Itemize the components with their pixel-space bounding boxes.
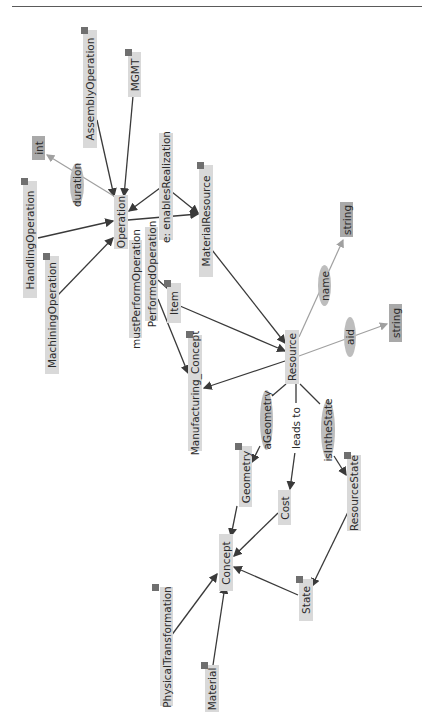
node-enables-realization[interactable]: e: enablesRealization (159, 133, 173, 240)
node-label: aGeometry (261, 391, 272, 450)
badge-icon (197, 162, 204, 169)
node-label: Cost (279, 496, 290, 519)
node-string-top[interactable]: string (340, 202, 353, 237)
node-label: string (390, 308, 401, 338)
edge-resourcestate-state (312, 512, 348, 586)
node-label: Operation (116, 196, 127, 248)
edge-resource-ageometry (272, 384, 286, 396)
node-label: leads to (291, 407, 302, 449)
edge-enables-materialresource (172, 192, 198, 213)
node-label: Concept (221, 541, 232, 584)
node-label: PhysicalTransformation (161, 586, 172, 708)
node-label: aid (345, 329, 356, 345)
node-mgmt[interactable]: MGMT (128, 52, 141, 97)
badge-icon (152, 584, 159, 591)
node-a-geometry[interactable]: aGeometry (260, 390, 273, 450)
edge-assembly-operation (97, 120, 114, 196)
node-geometry[interactable]: Geometry (239, 446, 252, 507)
node-label: MGMT (129, 58, 140, 91)
badge-icon (296, 576, 303, 583)
node-label: e: enablesRealization (161, 130, 172, 242)
node-machining-operation[interactable]: MachiningOperation (45, 256, 59, 374)
node-name[interactable]: name (318, 265, 331, 306)
badge-icon (43, 253, 50, 260)
node-label: MaterialResource (201, 176, 212, 267)
node-cost[interactable]: Cost (278, 490, 291, 525)
node-leads-to[interactable]: leads to (290, 403, 302, 453)
badge-icon (344, 452, 351, 459)
node-label: string (341, 204, 352, 234)
node-operation[interactable]: Operation (114, 195, 128, 249)
node-duration[interactable]: duration (70, 163, 84, 206)
node-aid[interactable]: aid (344, 317, 356, 357)
node-manufacturing-concept[interactable]: Manufacturing_Concept (188, 335, 202, 451)
badge-icon (235, 443, 242, 450)
node-concept[interactable]: Concept (219, 534, 233, 591)
edge-enables-operation (129, 188, 160, 211)
node-label: int (33, 141, 44, 155)
node-label: Material (207, 667, 218, 710)
node-physical-transformation[interactable]: PhysicalTransformation (160, 587, 173, 706)
node-label: ResourceState (349, 455, 360, 531)
node-label: Geometry (240, 450, 251, 502)
edge-cost-concept (234, 513, 278, 556)
edge-physicaltransformation-concept (171, 574, 217, 636)
edge-geometry-concept (231, 506, 237, 536)
badge-icon (164, 280, 171, 287)
edge-handling-operation (38, 221, 113, 238)
edge-resource-isinthestate (300, 384, 320, 404)
node-resource-state[interactable]: ResourceState (347, 455, 361, 531)
node-label: Manufacturing_Concept (190, 331, 201, 456)
node-item[interactable]: Item (167, 283, 181, 323)
node-label: isIntheState (323, 398, 334, 461)
node-label: HandlingOperation (25, 190, 36, 289)
node-label: PerformedOperation (146, 221, 157, 328)
edge-resource-manufacturing (204, 361, 285, 388)
badge-icon (186, 331, 193, 338)
node-performed-operation[interactable]: PerformedOperation (145, 227, 158, 321)
edge-ageometry-geometry (252, 446, 260, 462)
node-label: MachiningOperation (47, 262, 58, 368)
node-int[interactable]: int (32, 136, 45, 160)
node-material[interactable]: Material (205, 665, 219, 712)
node-label: name (319, 271, 330, 301)
node-label: mustPerformOperation (130, 229, 141, 349)
node-label: Item (169, 291, 180, 315)
node-is-in-the-state[interactable]: isIntheState (321, 400, 335, 460)
node-state[interactable]: State (299, 579, 313, 621)
edge-layer (0, 0, 427, 720)
node-string-right[interactable]: string (389, 304, 402, 342)
node-label: AssemblyOperation (85, 38, 96, 141)
edge-leadsto-cost (290, 452, 295, 489)
node-handling-operation[interactable]: HandlingOperation (23, 181, 37, 298)
badge-icon (201, 662, 208, 669)
badge-icon (21, 178, 28, 185)
node-resource[interactable]: Resource (285, 330, 299, 384)
node-label: Resource (287, 333, 298, 381)
node-material-resource[interactable]: MaterialResource (199, 165, 213, 277)
node-must-perform-operation[interactable]: mustPerformOperation (129, 240, 142, 338)
edge-state-concept (234, 567, 298, 595)
node-assembly-operation[interactable]: AssemblyOperation (83, 30, 97, 148)
node-label: duration (72, 162, 83, 206)
edge-material-concept (213, 586, 225, 665)
node-label: State (301, 586, 312, 614)
edge-mgmt-operation (124, 96, 133, 196)
badge-icon (125, 49, 132, 56)
badge-icon (81, 27, 88, 34)
edge-materialresource-resource (212, 250, 285, 343)
edge-machining-operation (58, 238, 113, 295)
